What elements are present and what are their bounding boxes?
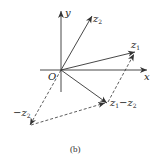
dashed-neg-z2-to-diff: [31, 103, 105, 125]
y-axis-label: y: [65, 8, 71, 18]
origin-label: O: [48, 72, 56, 82]
y-axis-label-text: y: [65, 7, 71, 18]
neg-z2-label-sub: 2: [27, 112, 31, 119]
figure-caption: (b): [70, 145, 81, 154]
z1-minus-z2-label: z1−z2: [110, 98, 137, 109]
figure-caption-text: (b): [70, 144, 81, 154]
z2-label-sub: 2: [98, 18, 102, 25]
z1-label: z1: [131, 40, 140, 51]
complex-vector-diagram: [0, 0, 158, 163]
z2-label: z2: [93, 14, 102, 25]
vector-z1-minus-z2: [61, 70, 107, 103]
x-axis-label: x: [144, 72, 150, 82]
vector-neg-z2: [30, 70, 61, 125]
neg-z2-label: −z2: [13, 108, 31, 119]
diff-label-sub-b: 2: [133, 102, 137, 109]
vector-z2: [61, 16, 92, 70]
diff-label-op: −: [119, 97, 127, 108]
x-axis-label-text: x: [144, 71, 150, 82]
z1-label-sub: 1: [136, 44, 140, 51]
origin-label-text: O: [48, 71, 56, 82]
vector-z1: [61, 52, 135, 70]
dashed-diff-to-z1: [108, 54, 134, 102]
